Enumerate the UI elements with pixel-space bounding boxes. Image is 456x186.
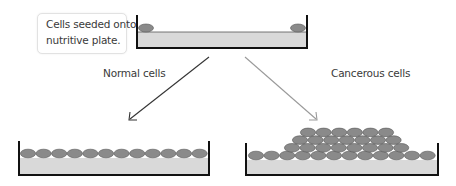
cell xyxy=(316,144,331,153)
cell xyxy=(130,149,145,158)
cell xyxy=(342,151,357,160)
cell xyxy=(248,151,263,160)
cell xyxy=(292,136,307,145)
cell xyxy=(386,136,401,145)
cell xyxy=(20,149,35,158)
cell xyxy=(326,151,341,160)
cell xyxy=(311,151,326,160)
cell xyxy=(347,128,362,137)
cell xyxy=(83,149,98,158)
cell xyxy=(324,136,339,145)
cell xyxy=(332,128,347,137)
cell xyxy=(389,151,404,160)
cell xyxy=(98,149,113,158)
cell xyxy=(394,144,409,153)
seeded-cell xyxy=(291,24,306,32)
cell xyxy=(280,151,295,160)
seeding-callout: Cells seeded onto nutritive plate. xyxy=(37,13,127,54)
cell xyxy=(300,128,315,137)
cell xyxy=(192,149,207,158)
cell xyxy=(347,144,362,153)
cell xyxy=(404,151,419,160)
cell xyxy=(67,149,82,158)
cell xyxy=(370,136,385,145)
cancerous-plate xyxy=(245,128,439,176)
cell xyxy=(339,136,354,145)
cell xyxy=(264,151,279,160)
seeded-cell xyxy=(139,24,154,32)
cell xyxy=(295,151,310,160)
cell xyxy=(378,144,393,153)
cell xyxy=(378,128,393,137)
cell xyxy=(145,149,160,158)
cell xyxy=(114,149,129,158)
cell xyxy=(420,151,435,160)
cell xyxy=(331,144,346,153)
cell xyxy=(316,128,331,137)
cell xyxy=(373,151,388,160)
callout-line-1: Cells seeded onto xyxy=(46,17,136,32)
label-normal-cells: Normal cells xyxy=(103,67,165,79)
cell xyxy=(300,144,315,153)
arrow-cancerous xyxy=(245,57,317,120)
cell xyxy=(176,149,191,158)
top-plate xyxy=(136,15,308,48)
cell xyxy=(362,144,377,153)
callout-line-2: nutritive plate. xyxy=(46,33,120,48)
cell xyxy=(52,149,67,158)
cell xyxy=(355,136,370,145)
label-cancerous-cells: Cancerous cells xyxy=(331,67,410,79)
normal-plate xyxy=(18,141,210,176)
cell xyxy=(36,149,51,158)
cell xyxy=(358,151,373,160)
cell xyxy=(284,144,299,153)
cell xyxy=(161,149,176,158)
cell xyxy=(363,128,378,137)
cell xyxy=(308,136,323,145)
